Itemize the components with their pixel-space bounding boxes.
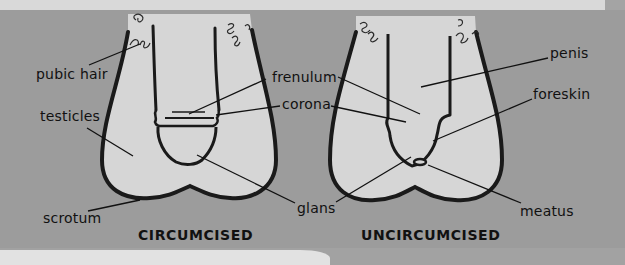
caption-uncircumcised: UNCIRCUMCISED (361, 227, 500, 243)
label-foreskin: foreskin (533, 86, 590, 102)
label-pubic-hair: pubic hair (36, 66, 108, 82)
label-penis: penis (550, 45, 589, 61)
scrotum-fill (330, 16, 502, 200)
uncircumcised-illustration (330, 16, 548, 203)
meatus-opening (414, 159, 426, 165)
label-frenulum: frenulum (272, 69, 337, 85)
label-corona: corona (282, 96, 331, 112)
label-testicles: testicles (40, 108, 100, 124)
label-glans: glans (297, 200, 336, 216)
caption-circumcised: CIRCUMCISED (138, 227, 253, 243)
circumcised-illustration (87, 14, 295, 211)
label-meatus: meatus (520, 203, 574, 219)
label-scrotum: scrotum (43, 210, 101, 226)
